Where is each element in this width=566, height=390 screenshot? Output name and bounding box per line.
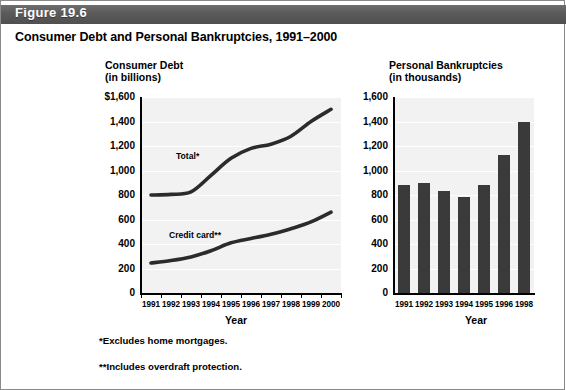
x-axis-tick (141, 294, 142, 298)
y-axis-tick-label: 400 (89, 239, 135, 249)
left-chart-x-axis-title: Year (131, 314, 341, 326)
y-axis-tick-label: 1,600 (342, 92, 388, 102)
y-axis-tick-label: 0 (342, 288, 388, 298)
y-axis-tick-label: 0 (89, 288, 135, 298)
gridline (141, 269, 341, 270)
x-axis-tick (321, 294, 322, 298)
y-axis-tick-label: 400 (342, 239, 388, 249)
right-chart-heading-line1: Personal Bankruptcies (389, 59, 503, 71)
gridline (394, 122, 534, 123)
x-axis-tick (261, 294, 262, 298)
bar (498, 155, 509, 293)
x-axis-tick (161, 294, 162, 298)
figure-number-label: Figure 19.6 (15, 6, 87, 20)
x-axis-tick (281, 294, 282, 298)
bar (478, 185, 489, 293)
x-axis-tick (301, 294, 302, 298)
y-axis-tick-label: 1,200 (342, 141, 388, 151)
right-chart-x-axis-title: Year (401, 314, 551, 326)
left-chart-plot-area (141, 97, 341, 293)
x-axis-tick (241, 294, 242, 298)
gridline (394, 195, 534, 196)
bar (418, 183, 429, 293)
gridline (394, 171, 534, 172)
bar (398, 185, 409, 293)
y-axis-tick-label: 1,400 (89, 117, 135, 127)
y-axis-tick-label: 600 (89, 215, 135, 225)
gridline (141, 97, 341, 98)
y-axis-tick-label: 1,000 (89, 166, 135, 176)
y-axis-tick-label: 800 (89, 190, 135, 200)
x-axis-tick-label: 2000 (316, 300, 346, 309)
y-axis-tick-label: 800 (342, 190, 388, 200)
x-axis-tick (201, 294, 202, 298)
gridline (141, 244, 341, 245)
y-axis-tick-label: $1,600 (89, 92, 135, 102)
y-axis-tick-label: 1,000 (342, 166, 388, 176)
gridline (141, 122, 341, 123)
y-axis-tick-label: 200 (89, 264, 135, 274)
footnote-one: *Excludes home mortgages. (99, 335, 228, 346)
gridline (141, 171, 341, 172)
right-chart-plot-area (394, 97, 534, 293)
gridline (141, 220, 341, 221)
gridline (394, 97, 534, 98)
series-label-total: Total* (176, 151, 199, 161)
y-axis-tick-label: 1,400 (342, 117, 388, 127)
left-chart-heading-line1: Consumer Debt (105, 59, 183, 71)
y-axis-line (393, 97, 395, 294)
bar (518, 122, 529, 294)
gridline (141, 146, 341, 147)
x-axis-line (393, 293, 535, 295)
x-axis-tick (181, 294, 182, 298)
y-axis-tick-label: 1,200 (89, 141, 135, 151)
y-axis-line (140, 97, 142, 294)
bar (438, 191, 449, 293)
y-axis-tick-label: 200 (342, 264, 388, 274)
x-axis-tick-label: 1998 (509, 300, 539, 309)
footnote-two: **Includes overdraft protection. (99, 361, 242, 372)
gridline (394, 146, 534, 147)
bar (458, 197, 469, 293)
y-axis-tick-label: 600 (342, 215, 388, 225)
right-chart-heading-line2: (in thousands) (389, 71, 461, 83)
series-label-credit-card: Credit card** (169, 230, 221, 240)
left-chart-heading-line2: (in billions) (105, 71, 161, 83)
x-axis-tick (221, 294, 222, 298)
figure-title: Consumer Debt and Personal Bankruptcies,… (15, 30, 337, 44)
gridline (141, 195, 341, 196)
